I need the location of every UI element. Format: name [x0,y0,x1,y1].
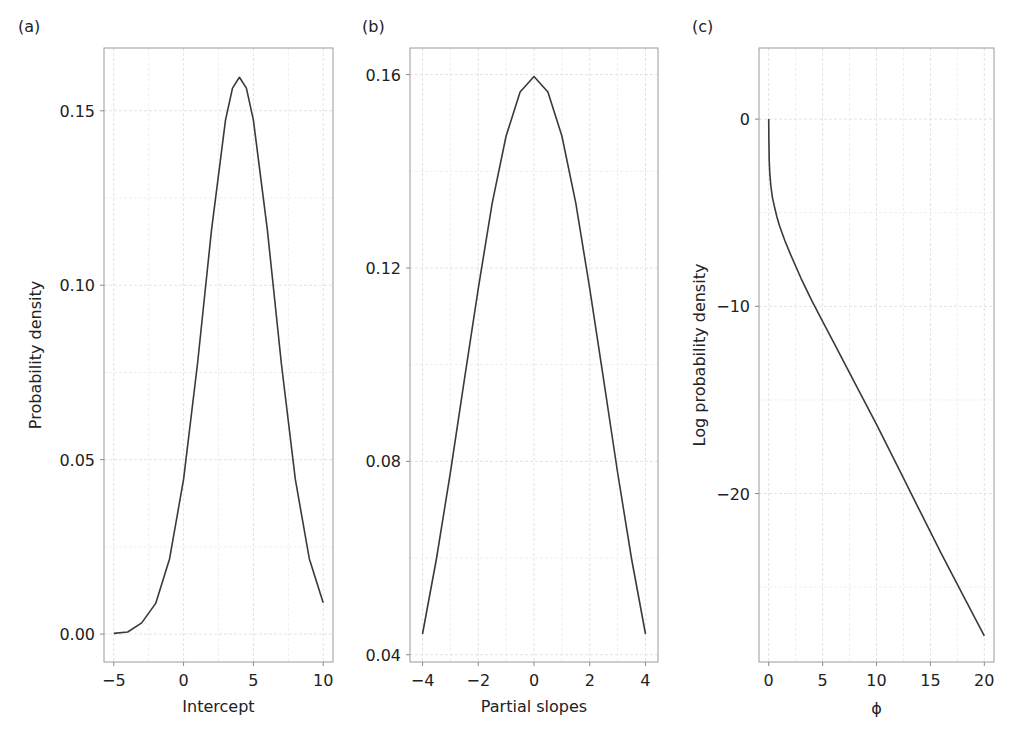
grid-lines [410,48,658,662]
panel-label-b: (b) [362,17,385,36]
y-tick-label: 0.08 [365,452,401,471]
y-tick-label: 0.04 [365,646,401,665]
y-tick-label: 0.15 [59,102,95,121]
x-tick-label: 15 [920,671,940,690]
x-axis: −50510 [102,662,333,690]
x-tick-label: 10 [866,671,886,690]
x-axis-label: ϕ [871,699,882,718]
x-tick-label: 2 [585,671,595,690]
panel-c: (c) 051015200−10−20ϕLog probability dens… [690,17,995,718]
x-tick-label: 5 [818,671,828,690]
x-tick-label: −5 [102,671,126,690]
x-tick-label: 5 [248,671,258,690]
y-axis: 0−10−20 [716,110,759,503]
x-axis-label: Intercept [182,697,254,716]
grid-lines [759,48,994,662]
panel-b: (b) −4−20240.040.080.120.16Partial slope… [362,17,658,716]
y-axis: 0.000.050.100.15 [59,102,104,644]
x-tick-label: 20 [974,671,994,690]
y-tick-label: 0.12 [365,259,401,278]
y-tick-label: 0.00 [59,625,95,644]
panel-label-c: (c) [692,17,713,36]
x-axis-label: Partial slopes [481,697,587,716]
y-tick-label: −10 [716,297,750,316]
x-tick-label: −2 [466,671,490,690]
panel-a: (a) −505100.000.050.100.15InterceptProba… [18,17,333,716]
y-tick-label: 0.05 [59,451,95,470]
y-tick-label: 0.10 [59,276,95,295]
y-tick-label: 0.16 [365,66,401,85]
x-tick-label: 0 [764,671,774,690]
panel-label-a: (a) [18,17,40,36]
y-axis-label: Log probability density [690,264,709,447]
grid-lines [104,48,333,662]
y-axis: 0.040.080.120.16 [365,66,410,665]
figure: (a) −505100.000.050.100.15InterceptProba… [0,0,1021,736]
x-tick-label: 10 [313,671,333,690]
x-tick-label: 0 [178,671,188,690]
y-axis-label: Probability density [26,281,45,429]
x-tick-label: 4 [640,671,650,690]
x-tick-label: 0 [529,671,539,690]
x-tick-label: −4 [411,671,435,690]
x-axis: −4−2024 [411,662,651,690]
x-axis: 05101520 [764,662,995,690]
y-tick-label: −20 [716,485,750,504]
y-tick-label: 0 [740,110,750,129]
